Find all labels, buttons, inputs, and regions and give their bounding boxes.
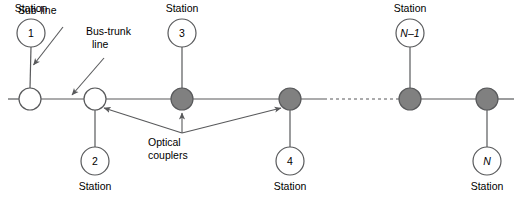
coupler-4 [279,88,301,110]
station-n-minus-1-number: N–1 [400,27,419,39]
station-1-number: 1 [28,27,34,39]
coupler-3 [171,88,193,110]
optical-couplers-arrow-left [104,108,182,133]
coupler-n-minus-1 [399,88,421,110]
node-1 [19,88,41,110]
coupler-n [476,88,498,110]
station-2-title: Station [79,180,112,192]
node-2 [84,88,106,110]
figure-canvas: Sub-line Bus-trunk line Optical couplers… [0,0,524,207]
bus-trunk-line-callout-label-line2: line [92,38,108,50]
station-4-title: Station [274,180,307,192]
station-n-title: Station [471,180,504,192]
station-2-number: 2 [92,155,98,167]
sub-line-station-1 [30,47,31,88]
station-3-title: Station [166,2,199,14]
station-1-title: Station [15,2,48,14]
station-3-number: 3 [179,27,185,39]
station-n-number: N [483,155,491,167]
diagram-svg [0,0,524,207]
optical-couplers-label-line1: Optical [148,136,181,148]
station-n-minus-1-title: Station [394,2,427,14]
station-4-number: 4 [287,155,293,167]
optical-couplers-label-line2: couplers [148,149,188,161]
optical-couplers-arrow-right [182,108,281,133]
bus-trunk-line-callout-label-line1: Bus-trunk [86,25,131,37]
